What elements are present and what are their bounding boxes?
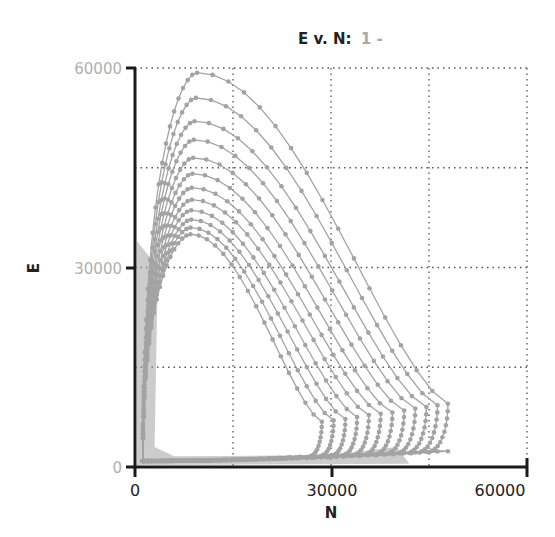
data-point-marker xyxy=(314,382,319,387)
data-point-marker xyxy=(190,197,195,202)
data-point-marker xyxy=(141,437,146,442)
data-point-marker xyxy=(345,407,350,412)
data-point-marker xyxy=(161,273,166,278)
data-point-marker xyxy=(183,144,188,149)
data-point-marker xyxy=(169,200,174,205)
data-point-marker xyxy=(256,278,261,283)
data-point-marker xyxy=(285,329,290,334)
data-point-marker xyxy=(181,86,186,91)
data-point-marker xyxy=(318,435,323,440)
data-point-marker xyxy=(328,443,333,448)
data-point-marker xyxy=(314,214,319,219)
data-point-marker xyxy=(230,230,235,235)
data-point-marker xyxy=(428,440,433,445)
data-point-marker xyxy=(269,316,274,321)
data-point-marker xyxy=(267,263,272,268)
data-point-marker xyxy=(189,98,194,103)
data-point-marker xyxy=(184,233,189,238)
data-point-marker xyxy=(399,343,404,348)
data-point-marker xyxy=(417,441,422,446)
data-point-marker xyxy=(143,376,148,381)
data-point-marker xyxy=(381,354,386,359)
data-point-marker xyxy=(293,324,298,329)
data-point-marker xyxy=(288,455,293,460)
data-point-marker xyxy=(320,198,325,203)
data-point-marker xyxy=(142,395,147,400)
data-point-marker xyxy=(366,425,371,430)
chart: E v. N: 1 - 60000 30000 0 0 30000 60000 … xyxy=(0,0,555,537)
data-point-marker xyxy=(221,127,226,132)
data-point-marker xyxy=(175,120,180,125)
data-point-marker xyxy=(330,434,335,439)
data-point-marker xyxy=(168,255,173,260)
data-point-marker xyxy=(174,176,179,181)
data-point-marker xyxy=(190,73,195,78)
data-point-marker xyxy=(224,104,229,109)
data-point-marker xyxy=(402,415,407,420)
data-point-marker xyxy=(390,410,395,415)
data-point-marker xyxy=(185,187,190,192)
data-point-marker xyxy=(387,434,392,439)
data-point-marker xyxy=(444,423,449,428)
data-point-marker xyxy=(400,427,405,432)
data-point-marker xyxy=(411,426,416,431)
data-point-marker xyxy=(377,430,382,435)
data-point-marker xyxy=(289,299,294,304)
data-point-marker xyxy=(245,232,250,237)
data-point-marker xyxy=(169,213,174,218)
data-point-marker xyxy=(169,233,174,238)
data-point-marker xyxy=(343,453,348,458)
data-point-marker xyxy=(352,305,357,310)
data-point-marker xyxy=(324,378,329,383)
data-point-marker xyxy=(164,263,169,268)
x-tick-label-30000: 30000 xyxy=(307,481,358,500)
data-point-marker xyxy=(201,199,206,204)
data-point-marker xyxy=(364,436,369,441)
data-point-marker xyxy=(240,197,245,202)
data-point-marker xyxy=(395,443,400,448)
data-point-marker xyxy=(430,389,435,394)
data-point-marker xyxy=(190,171,195,176)
series-line-loop-3 xyxy=(143,121,427,461)
data-point-marker xyxy=(402,408,407,413)
data-point-marker xyxy=(176,241,181,246)
data-point-marker xyxy=(153,459,158,464)
data-point-marker xyxy=(206,231,211,236)
data-point-marker xyxy=(352,256,357,261)
data-point-marker xyxy=(225,199,230,204)
data-point-marker xyxy=(163,162,168,167)
data-point-marker xyxy=(176,96,181,101)
data-point-marker xyxy=(182,161,187,166)
data-point-marker xyxy=(168,459,173,464)
data-point-marker xyxy=(260,237,265,242)
data-point-marker xyxy=(296,292,301,297)
data-point-marker xyxy=(374,440,379,445)
data-point-marker xyxy=(353,368,358,373)
data-point-marker xyxy=(187,139,192,144)
data-point-marker xyxy=(413,413,418,418)
data-point-marker xyxy=(237,250,242,255)
data-point-marker xyxy=(184,227,189,232)
data-point-marker xyxy=(284,272,289,277)
data-point-marker xyxy=(287,371,292,376)
data-point-marker xyxy=(432,430,437,435)
y-tick-label-60000: 60000 xyxy=(74,60,122,78)
data-point-marker xyxy=(188,225,193,230)
data-point-marker xyxy=(315,305,320,310)
data-point-marker xyxy=(320,453,325,458)
data-point-marker xyxy=(378,424,383,429)
data-point-marker xyxy=(355,415,360,420)
data-point-marker xyxy=(405,372,410,377)
data-point-marker xyxy=(446,449,451,454)
data-point-marker xyxy=(186,458,191,463)
data-point-marker xyxy=(186,173,191,178)
data-point-marker xyxy=(356,405,361,410)
data-point-marker xyxy=(445,409,450,414)
data-point-marker xyxy=(226,79,231,84)
data-point-marker xyxy=(305,384,310,389)
data-point-marker xyxy=(185,199,190,204)
data-point-marker xyxy=(311,412,316,417)
data-point-marker xyxy=(199,209,204,214)
data-point-marker xyxy=(268,456,273,461)
data-point-marker xyxy=(279,354,284,359)
